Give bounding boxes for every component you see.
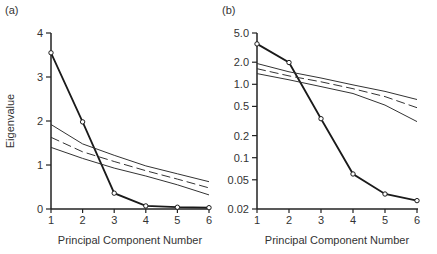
y-tick-label: 1 — [37, 159, 43, 171]
x-axis-label: Principal Component Number — [265, 234, 410, 246]
y-tick-label: 2.0 — [234, 56, 249, 68]
y-tick-label: 0.2 — [234, 130, 249, 142]
y-tick-label: 3 — [37, 71, 43, 83]
y-tick-label: 2 — [37, 115, 43, 127]
upper-bound-line — [257, 64, 417, 100]
panel-a-linear-scree-plot: (a)01234123456Principal Component Number… — [4, 4, 212, 246]
x-tick-label: 5 — [174, 214, 180, 226]
data-point-marker — [383, 192, 387, 196]
y-tick-label: 5.0 — [234, 27, 249, 39]
scree-plot-figure: (a)01234123456Principal Component Number… — [0, 0, 437, 254]
y-tick-label: 4 — [37, 27, 43, 39]
upper-bound-line — [51, 125, 209, 182]
panel-label: (a) — [5, 4, 18, 16]
x-tick-label: 3 — [111, 214, 117, 226]
data-point-marker — [415, 198, 419, 202]
data-point-marker — [207, 205, 211, 209]
x-tick-label: 5 — [382, 214, 388, 226]
y-tick-label: 0 — [37, 203, 43, 215]
data-point-marker — [144, 204, 148, 208]
x-tick-label: 2 — [286, 214, 292, 226]
panel-b-log-scree-plot: (b)0.020.050.10.20.51.02.05.0123456Princ… — [222, 4, 420, 246]
y-tick-label: 0.1 — [234, 152, 249, 164]
x-tick-label: 3 — [318, 214, 324, 226]
data-point-marker — [319, 116, 323, 120]
data-point-marker — [351, 172, 355, 176]
x-tick-label: 4 — [143, 214, 149, 226]
x-tick-label: 2 — [80, 214, 86, 226]
mean-line — [51, 137, 209, 188]
data-point-marker — [287, 60, 291, 64]
eigenvalues-line — [257, 44, 417, 201]
x-tick-label: 1 — [48, 214, 54, 226]
mean-line — [257, 69, 417, 108]
y-tick-label: 1.0 — [234, 78, 249, 90]
y-tick-label: 0.05 — [228, 174, 249, 186]
panel-label: (b) — [222, 4, 235, 16]
data-point-marker — [112, 191, 116, 195]
x-tick-label: 6 — [414, 214, 420, 226]
y-tick-label: 0.5 — [234, 100, 249, 112]
y-axis-label: Eigenvalue — [4, 94, 16, 148]
data-point-marker — [255, 42, 259, 46]
eigenvalues-line — [51, 53, 209, 208]
data-point-marker — [80, 120, 84, 124]
lower-bound-line — [257, 74, 417, 122]
x-tick-label: 1 — [254, 214, 260, 226]
x-tick-label: 6 — [206, 214, 212, 226]
data-point-marker — [175, 205, 179, 209]
data-point-marker — [49, 51, 53, 55]
lower-bound-line — [51, 147, 209, 195]
x-axis-label: Principal Component Number — [58, 234, 203, 246]
y-tick-label: 0.02 — [228, 203, 249, 215]
x-tick-label: 4 — [350, 214, 356, 226]
